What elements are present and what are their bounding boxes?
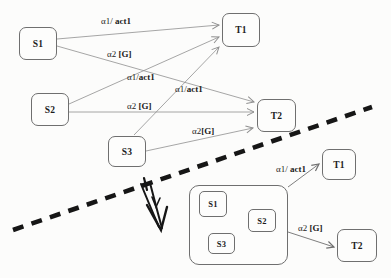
edge-label-s2-t1: α1/act1 xyxy=(127,73,155,82)
edge-line-s1-t2 xyxy=(57,46,254,102)
diagram-canvas: S1 S2 S3 T1 T2 α1/ act1 α2 [G] α1/act1 α… xyxy=(0,0,391,278)
bottom-node-t1: T1 xyxy=(322,149,356,180)
edge-label-s2-t2-event: α2 xyxy=(127,101,138,111)
hand-drawn-arrow xyxy=(141,178,167,230)
edge-label-s3-t1: α1/act1 xyxy=(175,85,203,94)
bottom-node-s3: S3 xyxy=(208,233,235,254)
top-node-s3: S3 xyxy=(108,136,146,167)
edge-label-composite-t1-event: α1/ xyxy=(276,164,290,174)
edge-label-s1-t1-event: α1/ xyxy=(101,16,115,26)
bottom-node-t2: T2 xyxy=(337,229,377,262)
edge-label-s1-t1-action: act1 xyxy=(115,16,131,26)
top-node-s2: S2 xyxy=(31,93,69,126)
top-node-s1: S1 xyxy=(19,27,57,60)
edge-label-s2-t1-event: α1/ xyxy=(127,72,139,82)
edge-label-composite-t1-action: act1 xyxy=(290,164,306,174)
edge-label-s2-t1-action: act1 xyxy=(139,72,155,82)
edge-label-s3-t1-action: act1 xyxy=(187,84,203,94)
edge-label-s3-t2-event: α2 xyxy=(192,126,201,136)
edge-label-s2-t2-guard: [G] xyxy=(138,101,151,111)
edge-line-composite-t2 xyxy=(288,232,334,247)
edge-label-composite-t2-event: α2 xyxy=(298,223,309,233)
edge-label-s1-t2: α2 [G] xyxy=(107,50,131,59)
edge-label-s3-t2-guard: [G] xyxy=(201,126,214,136)
edge-label-composite-t2: α2 [G] xyxy=(298,224,322,233)
edge-label-composite-t1: α1/ act1 xyxy=(276,165,306,174)
edge-label-composite-t2-guard: [G] xyxy=(309,223,322,233)
edge-label-s1-t1: α1/ act1 xyxy=(101,17,131,26)
edge-line-s1-t1 xyxy=(57,25,219,39)
edge-label-s1-t2-event: α2 xyxy=(107,49,118,59)
edge-label-s3-t2: α2[G] xyxy=(192,127,214,136)
edge-label-s3-t1-event: α1/ xyxy=(175,84,187,94)
top-node-t2: T2 xyxy=(257,99,296,132)
bottom-node-s2: S2 xyxy=(248,209,276,232)
edge-label-s2-t2: α2 [G] xyxy=(127,102,151,111)
edge-label-s1-t2-guard: [G] xyxy=(118,49,131,59)
top-node-t1: T1 xyxy=(222,13,260,47)
bottom-node-s1: S1 xyxy=(199,191,227,217)
